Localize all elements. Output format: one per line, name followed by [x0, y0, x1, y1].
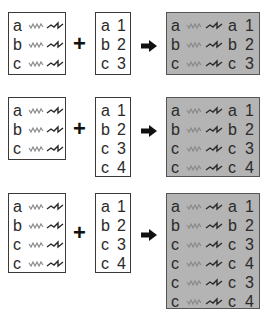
squiggle-light-icon — [28, 216, 44, 235]
squiggle-dark-icon — [46, 16, 64, 35]
key-cell: c — [171, 54, 179, 73]
table-row: b — [9, 216, 65, 235]
right-key-cell: c — [228, 54, 236, 73]
value-cell: 4 — [117, 254, 126, 273]
squiggle-light-icon — [186, 273, 202, 292]
table-row: c — [9, 54, 65, 73]
squiggle-dark-icon — [205, 158, 223, 177]
table-row: b2 — [96, 35, 130, 54]
squiggle-light-icon — [28, 16, 44, 35]
squiggle-dark-icon — [46, 254, 64, 273]
value-cell: 3 — [117, 54, 126, 73]
value-cell: 3 — [245, 54, 254, 73]
squiggle-light-icon — [28, 54, 44, 73]
squiggle-dark-icon — [205, 139, 223, 158]
value-cell: 2 — [117, 216, 126, 235]
value-cell: 1 — [117, 16, 126, 35]
left-table: abc — [8, 97, 66, 160]
result-table: aa1bb2cc3cc4 — [166, 97, 260, 177]
key-cell: b — [171, 35, 180, 54]
table-row: cc4 — [167, 292, 259, 311]
key-cell: c — [101, 158, 109, 177]
arrow-right-icon — [141, 123, 157, 135]
squiggle-dark-icon — [205, 292, 223, 311]
key-cell: c — [101, 254, 109, 273]
squiggle-light-icon — [28, 235, 44, 254]
table-row: c3 — [96, 54, 130, 73]
squiggle-light-icon — [28, 101, 44, 120]
key-cell: a — [101, 101, 110, 120]
key-cell: c — [171, 254, 179, 273]
squiggle-light-icon — [28, 254, 44, 273]
right-key-cell: a — [228, 101, 237, 120]
right-key-cell: c — [228, 158, 236, 177]
key-cell: a — [13, 101, 22, 120]
key-cell: c — [171, 235, 179, 254]
squiggle-light-icon — [28, 139, 44, 158]
value-cell: 1 — [117, 197, 126, 216]
key-cell: c — [13, 139, 21, 158]
table-row: a — [9, 16, 65, 35]
squiggle-light-icon — [186, 139, 202, 158]
squiggle-dark-icon — [46, 216, 64, 235]
squiggle-light-icon — [186, 16, 202, 35]
key-cell: c — [171, 139, 179, 158]
squiggle-dark-icon — [205, 254, 223, 273]
value-cell: 2 — [245, 120, 254, 139]
table-row: bb2 — [167, 216, 259, 235]
key-cell: c — [13, 54, 21, 73]
key-cell: a — [13, 197, 22, 216]
squiggle-light-icon — [28, 197, 44, 216]
squiggle-dark-icon — [46, 35, 64, 54]
key-cell: c — [101, 54, 109, 73]
value-cell: 1 — [245, 101, 254, 120]
table-row: c4 — [96, 158, 130, 177]
value-cell: 2 — [117, 35, 126, 54]
right-key-cell: c — [228, 292, 236, 311]
key-cell: a — [171, 101, 180, 120]
table-row: b2 — [96, 120, 130, 139]
squiggle-dark-icon — [205, 35, 223, 54]
value-cell: 1 — [245, 16, 254, 35]
right-key-cell: c — [228, 235, 236, 254]
table-row: b — [9, 120, 65, 139]
value-cell: 3 — [245, 273, 254, 292]
result-table: aa1bb2cc3cc4cc3cc4 — [166, 193, 260, 309]
squiggle-dark-icon — [205, 216, 223, 235]
key-cell: a — [101, 197, 110, 216]
squiggle-light-icon — [186, 54, 202, 73]
key-cell: a — [101, 16, 110, 35]
key-cell: b — [13, 216, 22, 235]
table-row: bb2 — [167, 120, 259, 139]
squiggle-dark-icon — [46, 54, 64, 73]
table-row: a1 — [96, 16, 130, 35]
value-cell: 4 — [117, 158, 126, 177]
right-key-cell: b — [228, 216, 237, 235]
table-row: c — [9, 235, 65, 254]
table-row: cc4 — [167, 254, 259, 273]
key-cell: c — [13, 235, 21, 254]
table-row: aa1 — [167, 197, 259, 216]
table-row: c3 — [96, 235, 130, 254]
key-cell: b — [101, 216, 110, 235]
arrow-right-icon — [141, 38, 157, 50]
squiggle-dark-icon — [46, 139, 64, 158]
value-cell: 2 — [245, 35, 254, 54]
key-cell: c — [171, 273, 179, 292]
squiggle-dark-icon — [46, 235, 64, 254]
value-cell: 1 — [245, 197, 254, 216]
value-cell: 2 — [245, 216, 254, 235]
right-key-cell: c — [228, 254, 236, 273]
table-row: cc3 — [167, 54, 259, 73]
squiggle-dark-icon — [205, 197, 223, 216]
key-cell: c — [171, 292, 179, 311]
key-cell: a — [171, 16, 180, 35]
squiggle-light-icon — [186, 235, 202, 254]
table-row: c — [9, 254, 65, 273]
value-cell: 4 — [245, 158, 254, 177]
table-row: aa1 — [167, 16, 259, 35]
table-row: cc3 — [167, 273, 259, 292]
arrow-right-icon — [141, 227, 157, 239]
plus-icon: + — [73, 222, 86, 244]
squiggle-dark-icon — [205, 273, 223, 292]
